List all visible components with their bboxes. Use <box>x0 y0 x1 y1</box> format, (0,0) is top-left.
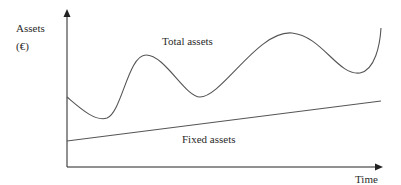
y-axis-unit: (€) <box>16 41 29 52</box>
assets-over-time-diagram <box>0 0 401 185</box>
y-axis-label: Assets <box>16 23 45 34</box>
total-assets-label: Total assets <box>162 36 213 47</box>
y-axis-arrow-icon <box>64 9 71 17</box>
fixed-assets-label: Fixed assets <box>182 134 235 145</box>
total-assets-curve <box>67 28 381 119</box>
x-axis-label: Time <box>355 174 378 185</box>
x-axis-arrow-icon <box>375 164 383 171</box>
